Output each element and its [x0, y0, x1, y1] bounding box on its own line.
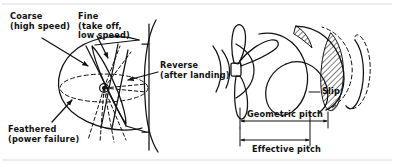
propeller-pitch-figure: Coarse (high speed) Fine (take off, low …	[0, 0, 394, 164]
sweep-cone-outline	[59, 37, 142, 130]
label-fine: Fine (take off, low speed)	[78, 12, 130, 41]
label-effective-pitch: Effective pitch	[252, 145, 321, 155]
prop-blade-upper	[232, 25, 246, 64]
leader-feathered	[52, 100, 72, 122]
blade-dashed-d	[104, 88, 126, 140]
end-disc-front	[346, 40, 363, 109]
leader-reverse	[128, 72, 158, 80]
label-geometric-pitch: Geometric pitch	[247, 110, 323, 120]
helix-geometric-front	[259, 33, 308, 115]
blade-dashed-c	[104, 88, 114, 142]
blade-dashed-reverse2	[104, 88, 146, 92]
label-coarse: Coarse (high speed)	[10, 12, 70, 31]
label-reverse: Reverse (after landing)	[160, 61, 230, 80]
slip-hatched-region	[288, 18, 356, 120]
spinner-body	[236, 44, 254, 98]
label-feathered: Feathered (power failure)	[8, 125, 79, 144]
propeller-hub	[231, 63, 241, 76]
label-slip: Slip	[322, 87, 340, 97]
blade-feathered-edge	[126, 126, 146, 132]
